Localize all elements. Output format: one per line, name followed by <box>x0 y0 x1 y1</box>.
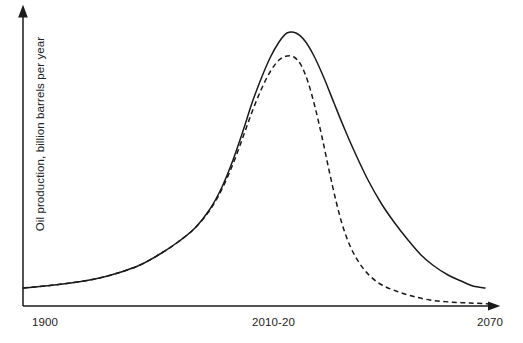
chart-canvas <box>0 0 523 343</box>
x-axis-tick-label-peak: 2010-20 <box>252 316 295 328</box>
series-group <box>23 32 490 304</box>
x-axis-tick-label-2070: 2070 <box>477 316 503 328</box>
peak-oil-chart: 1900 2010-20 2070 Oil production, billio… <box>0 0 523 343</box>
x-axis-tick-label-1900: 1900 <box>32 316 58 328</box>
y-axis-title: Oil production, billion barrels per year <box>34 28 46 240</box>
axis-group <box>23 16 489 306</box>
series-line-dashed <box>23 56 490 304</box>
series-line-solid <box>23 32 485 288</box>
